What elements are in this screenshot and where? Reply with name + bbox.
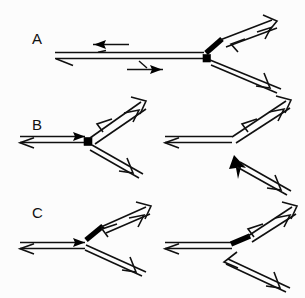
panel-label-a: A [32,30,43,47]
panel-label-b: B [32,116,43,133]
figure-canvas: A B [0,0,305,298]
branched-dna-diagram: A B [0,0,305,298]
panel-b-left-junction-node [84,138,92,146]
canvas-background [0,0,305,298]
panel-label-c: C [32,204,43,221]
panel-a-junction-node [203,55,211,63]
